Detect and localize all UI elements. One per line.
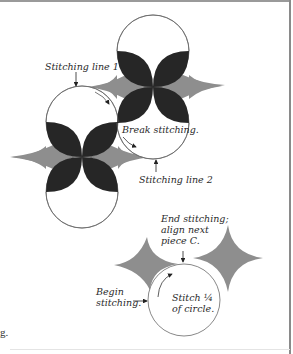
label-stitch-quarter: Stitch ¼ of circle. <box>172 292 214 314</box>
page: Stitching line 1 Break stitching. Stitch… <box>0 0 293 354</box>
label-stitching-line-2: Stitching line 2 <box>139 174 213 185</box>
left-edge-text-fragment: g. <box>0 326 8 338</box>
upper-block <box>10 15 225 228</box>
label-end-stitching: End stitching; align next piece C. <box>161 213 229 246</box>
label-stitching-line-1: Stitching line 1 <box>45 61 119 72</box>
label-break-stitching: Break stitching. <box>122 124 199 135</box>
label-begin-stitching: Begin stitching. <box>96 286 141 308</box>
